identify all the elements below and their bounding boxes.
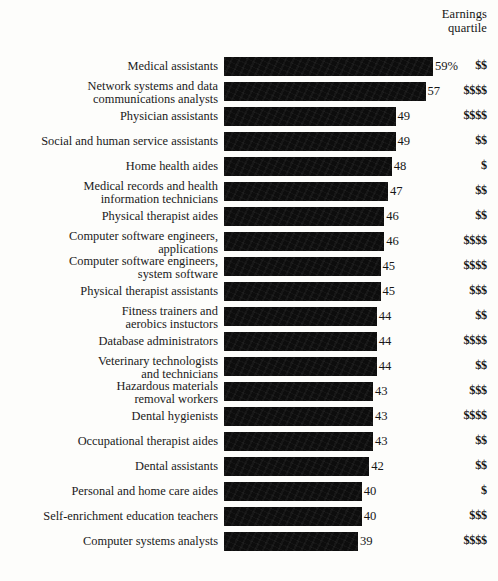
- bar-row: Hazardous materialsremoval workers43$$$: [0, 380, 498, 405]
- bar-track: 46: [224, 232, 498, 251]
- bar-track: 49: [224, 132, 498, 151]
- bar: [224, 257, 381, 276]
- bar: [224, 432, 373, 451]
- header-line-2: quartile: [357, 22, 487, 36]
- bar-row: Veterinary technologistsand technicians4…: [0, 355, 498, 380]
- earnings-quartile-value: $$$: [469, 283, 487, 298]
- bar-track: 49: [224, 107, 498, 126]
- bar-track: 44: [224, 307, 498, 326]
- bar-row-label: Medical records and healthinformation te…: [8, 180, 224, 205]
- bar-track: 45: [224, 282, 498, 301]
- bar: [224, 532, 358, 551]
- bar-value-label: 49: [398, 109, 411, 124]
- earnings-quartile-value: $$: [475, 58, 487, 73]
- bar-row-label-line: Social and human service assistants: [8, 135, 218, 148]
- bar-row-label: Home health aides: [8, 155, 224, 173]
- bar-value-label: 49: [398, 134, 411, 149]
- bar-track: 44: [224, 357, 498, 376]
- bar-value-label: 46: [386, 209, 399, 224]
- earnings-quartile-value: $$$$: [463, 333, 487, 348]
- bar-track: 45: [224, 257, 498, 276]
- bar-row-label-line: Occupational therapist aides: [8, 435, 218, 448]
- bar-row: Medical records and healthinformation te…: [0, 180, 498, 205]
- bar-row-label: Fitness trainers andaerobics instuctors: [8, 305, 224, 330]
- bar-track: 43: [224, 407, 498, 426]
- bar-row-label-line: Physician assistants: [8, 110, 218, 123]
- bar-row-label: Dental hygienists: [8, 405, 224, 423]
- bar-row: Physical therapist aides46$$: [0, 205, 498, 230]
- bar-row: Fitness trainers andaerobics instuctors4…: [0, 305, 498, 330]
- bar-row-label-line: Medical records and health: [8, 180, 218, 193]
- bar-row-label-line: Dental hygienists: [8, 410, 218, 423]
- bar-value-label: 44: [379, 309, 392, 324]
- bar-row-label: Computer software engineers,applications: [8, 230, 224, 255]
- bar-row: Self-enrichment education teachers40$$$: [0, 505, 498, 530]
- earnings-quartile-value: $: [481, 158, 487, 173]
- bar-track: 43: [224, 382, 498, 401]
- bar: [224, 107, 396, 126]
- bar-row-label-line: Dental assistants: [8, 460, 218, 473]
- bar-value-label: 45: [383, 259, 396, 274]
- bar-track: 59%: [224, 57, 498, 76]
- bar-row-label-line: Computer software engineers,: [8, 255, 218, 268]
- bar-value-label: 47: [390, 184, 403, 199]
- bar-track: 46: [224, 207, 498, 226]
- bar-track: 48: [224, 157, 498, 176]
- bar-track: 40: [224, 507, 498, 526]
- bar-row-label-line: Medical assistants: [8, 60, 218, 73]
- bar-rows: Medical assistants59%$$Network systems a…: [0, 55, 498, 555]
- bar-row: Database administrators44$$$$: [0, 330, 498, 355]
- earnings-quartile-value: $$$$: [463, 533, 487, 548]
- bar-row-label: Physical therapist assistants: [8, 280, 224, 298]
- earnings-quartile-value: $$$$: [463, 258, 487, 273]
- bar-value-label: 46: [386, 234, 399, 249]
- bar: [224, 207, 384, 226]
- bar-value-label: 59%: [435, 59, 458, 74]
- bar: [224, 332, 377, 351]
- bar-row-label-line: Physical therapist assistants: [8, 285, 218, 298]
- bar-row-label-line: removal workers: [8, 393, 218, 406]
- bar-value-label: 40: [364, 484, 377, 499]
- bar-row: Computer systems analysts39$$$$: [0, 530, 498, 555]
- bar-row-label-line: Hazardous materials: [8, 380, 218, 393]
- bar-row-label-line: Self-enrichment education teachers: [8, 510, 218, 523]
- bar-row: Physician assistants49$$$$: [0, 105, 498, 130]
- bar-value-label: 42: [371, 459, 384, 474]
- bar: [224, 357, 377, 376]
- bar-row: Home health aides48$: [0, 155, 498, 180]
- bar: [224, 382, 373, 401]
- bar-row-label: Occupational therapist aides: [8, 430, 224, 448]
- earnings-quartile-value: $$: [475, 458, 487, 473]
- bar-row-label: Database administrators: [8, 330, 224, 348]
- bar-track: 47: [224, 182, 498, 201]
- bar-track: 44: [224, 332, 498, 351]
- bar-row-label: Network systems and datacommunications a…: [8, 80, 224, 105]
- bar-row-label: Physician assistants: [8, 105, 224, 123]
- bar-value-label: 39: [360, 534, 373, 549]
- bar-row-label-line: Physical therapist aides: [8, 210, 218, 223]
- bar: [224, 82, 426, 101]
- header-line-1: Earnings: [357, 8, 487, 22]
- earnings-quartile-value: $$$: [469, 383, 487, 398]
- earnings-quartile-value: $$$$: [463, 408, 487, 423]
- earnings-quartile-value: $$: [475, 183, 487, 198]
- bar-value-label: 43: [375, 384, 388, 399]
- bar-row: Social and human service assistants49$$: [0, 130, 498, 155]
- bar: [224, 132, 396, 151]
- bar-value-label: 43: [375, 434, 388, 449]
- bar-row-label-line: communications analysts: [8, 93, 218, 106]
- bar-row: Personal and home care aides40$: [0, 480, 498, 505]
- bar-value-label: 43: [375, 409, 388, 424]
- bar-row-label: Social and human service assistants: [8, 130, 224, 148]
- bar-row-label: Physical therapist aides: [8, 205, 224, 223]
- bar-row-label-line: Veterinary technologists: [8, 355, 218, 368]
- bar-row-label: Hazardous materialsremoval workers: [8, 380, 224, 405]
- bar-row: Occupational therapist aides43$$: [0, 430, 498, 455]
- earnings-quartile-value: $$$$: [463, 233, 487, 248]
- bar-row-label-line: Fitness trainers and: [8, 305, 218, 318]
- bar-row-label-line: Home health aides: [8, 160, 218, 173]
- bar-row: Network systems and datacommunications a…: [0, 80, 498, 105]
- bar-row-label: Veterinary technologistsand technicians: [8, 355, 224, 380]
- earnings-quartile-value: $$: [475, 358, 487, 373]
- bar-row: Physical therapist assistants45$$$: [0, 280, 498, 305]
